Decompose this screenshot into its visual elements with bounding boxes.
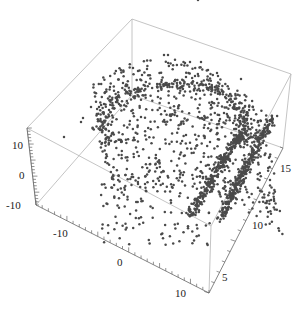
scatter-3d-plot: 10 0 -10 -10 0 10 5 10 15 [0,0,305,316]
x-tick-10: 10 [175,287,187,299]
data-points [63,0,284,246]
axis-ticks [27,128,283,293]
z-tick-minus10: -10 [6,199,21,211]
y-tick-15: 15 [280,162,292,174]
x-tick-0: 0 [117,256,123,268]
axes [27,128,283,293]
x-tick-minus10: -10 [53,227,68,239]
z-tick-10: 10 [12,139,24,151]
y-tick-10: 10 [252,219,264,231]
y-tick-5: 5 [222,271,228,283]
z-tick-0: 0 [19,169,25,181]
